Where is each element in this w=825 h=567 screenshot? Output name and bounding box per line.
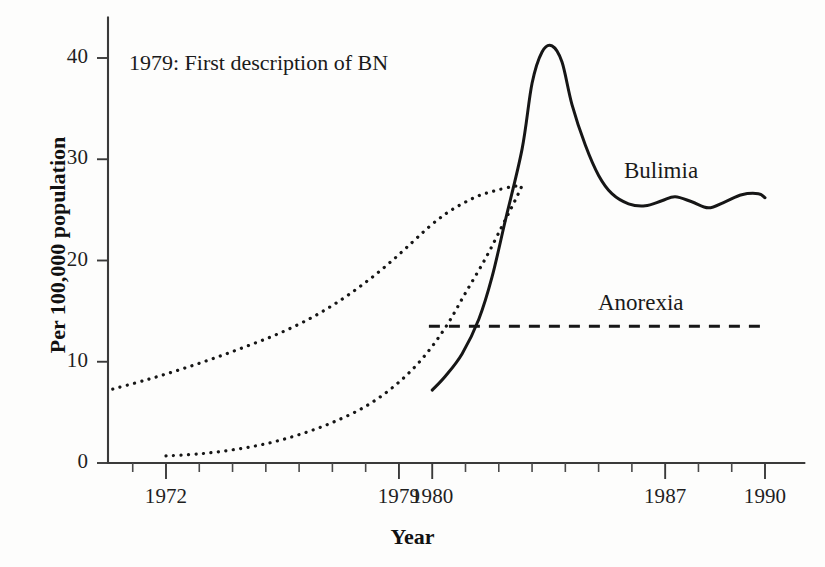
annotation-first-description: 1979: First description of BN	[129, 50, 388, 76]
series-line-bulimia-lower-projection	[166, 186, 522, 456]
axes-group	[97, 18, 804, 480]
series-line-bulimia	[432, 45, 765, 390]
x-tick-label-1990: 1990	[720, 484, 810, 509]
chart-figure: 01020304019721979198019871990 Per 100,00…	[0, 0, 825, 567]
x-tick-label-1972: 1972	[121, 484, 211, 509]
x-axis-title: Year	[0, 524, 825, 550]
chart-plot-area	[0, 0, 825, 567]
y-tick-label-0: 0	[12, 449, 88, 474]
series-label-bulimia: Bulimia	[624, 158, 698, 184]
series-group	[113, 45, 765, 456]
y-tick-label-40: 40	[12, 44, 88, 69]
x-tick-label-1987: 1987	[620, 484, 710, 509]
series-label-anorexia: Anorexia	[598, 290, 684, 316]
y-axis-title: Per 100,000 population	[45, 95, 71, 395]
x-tick-label-1980: 1980	[387, 484, 477, 509]
